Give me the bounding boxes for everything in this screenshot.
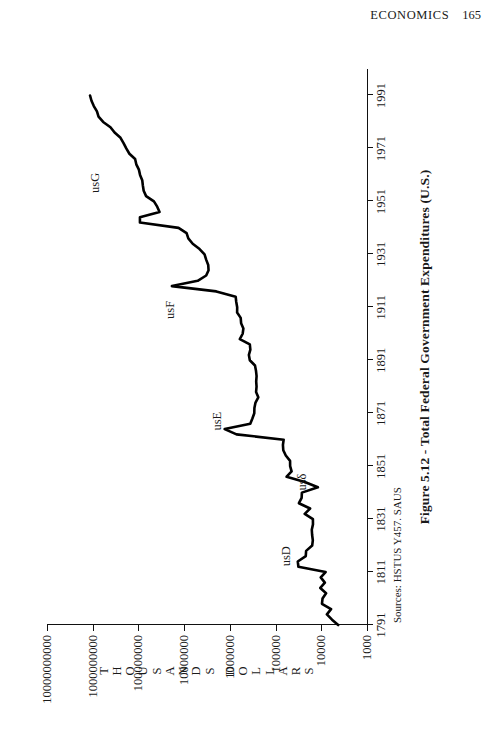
y-tick [138,625,139,631]
figure-stage: THOUSANDSDOLLARS usDusδusEusFusG Sources… [0,0,495,734]
series-annotation: usD [278,546,293,566]
y-tick [184,625,185,631]
y-axis-title-letter: R [290,667,303,675]
y-axis-title-letter: H [110,666,123,675]
sources-note: Sources: HSTUS Y457. SAUS [391,487,403,623]
y-tick [229,625,230,631]
y-tick-label: 1000 [359,635,374,660]
y-tick [47,625,48,631]
y-axis-title-letter: D [190,666,203,675]
y-tick-label: 1000000 [222,635,237,679]
x-tick [367,306,373,307]
y-tick-label: 10000000000 [39,635,54,704]
x-tick-label: 1951 [374,189,389,214]
y-tick-label: 100000000 [130,635,145,691]
x-tick-label: 1891 [374,348,389,373]
x-tick [367,465,373,466]
x-tick [367,94,373,95]
y-tick-label: 10000 [313,635,328,666]
x-tick-label: 1991 [374,83,389,108]
series-annotation: usF [162,301,177,319]
x-tick [367,359,373,360]
plot-region: usDusδusEusFusG [47,69,367,625]
y-axis-title-letter: S [203,668,216,675]
series-annotation: usE [209,412,224,431]
y-tick [275,625,276,631]
x-tick-label: 1931 [374,242,389,267]
y-tick [92,625,93,631]
x-tick-label: 1911 [374,295,389,320]
series-path [90,95,338,625]
x-tick [367,147,373,148]
series-line [47,69,367,625]
x-tick-label: 1971 [374,136,389,161]
y-axis-title-letter: L [250,667,263,675]
y-tick [367,625,368,631]
y-tick-label: 100000 [268,635,283,673]
y-axis-title-letter: A [163,666,176,675]
y-axis-title-letter: S [150,668,163,675]
series-annotation: usδ [294,474,309,491]
x-tick-label: 1851 [374,454,389,479]
x-tick [367,412,373,413]
y-axis-title-letter: O [237,666,250,675]
x-tick-label: 1831 [374,507,389,532]
rotated-figure: THOUSANDSDOLLARS usDusδusEusFusG Sources… [33,47,463,687]
y-axis-title-letter: S [303,668,316,675]
x-tick [367,253,373,254]
x-tick [367,200,373,201]
figure-caption: Figure 5.12 - Total Federal Government E… [417,69,433,625]
y-tick-label: 10000000 [176,635,191,685]
x-tick [367,518,373,519]
x-tick-label: 1811 [374,560,389,585]
x-tick-label: 1791 [374,613,389,638]
x-tick-label: 1871 [374,401,389,426]
y-tick [321,625,322,631]
chart-area: THOUSANDSDOLLARS usDusδusEusFusG Sources… [33,47,463,687]
x-tick [367,571,373,572]
y-tick-label: 1000000000 [85,635,100,698]
series-annotation: usG [87,173,102,193]
